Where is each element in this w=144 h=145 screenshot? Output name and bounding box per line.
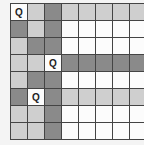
board-cell[interactable] [96,4,113,21]
board-cell[interactable] [79,38,96,55]
board-cell[interactable] [45,38,62,55]
board-cell[interactable] [45,72,62,89]
board-cell[interactable] [45,4,62,21]
board-cell[interactable] [62,38,79,55]
board-cell[interactable] [11,21,28,38]
board-cell[interactable] [96,123,113,140]
board-cell[interactable] [79,4,96,21]
queen-icon: Q [15,7,23,18]
board-cell[interactable] [96,38,113,55]
board-cell[interactable] [45,106,62,123]
game-board: QQQ [10,3,144,140]
board-cell[interactable] [130,55,144,72]
board-cell[interactable] [28,38,45,55]
board-cell[interactable] [62,89,79,106]
board-cell[interactable] [130,89,144,106]
board-cell[interactable] [11,72,28,89]
board-cell[interactable] [113,106,130,123]
board-cell[interactable]: Q [45,55,62,72]
board-cell[interactable] [11,89,28,106]
board-cell[interactable] [130,72,144,89]
board-cell[interactable]: Q [11,4,28,21]
board-cell[interactable] [79,55,96,72]
board-cell[interactable] [28,55,45,72]
board-cell[interactable] [62,4,79,21]
board-cell[interactable] [11,123,28,140]
board-cell[interactable] [28,4,45,21]
board-cell[interactable] [45,21,62,38]
board-cell[interactable] [113,38,130,55]
board-cell[interactable] [79,106,96,123]
queen-icon: Q [32,92,40,103]
board-cell[interactable] [96,106,113,123]
board-cell[interactable] [11,55,28,72]
board-cell[interactable] [28,72,45,89]
board-cell[interactable] [79,21,96,38]
board-cell[interactable] [62,21,79,38]
board-cell[interactable] [96,21,113,38]
board-cell[interactable] [113,89,130,106]
board-cell[interactable] [130,106,144,123]
board-cell[interactable] [79,72,96,89]
board-cell[interactable] [28,106,45,123]
board-cell[interactable] [11,106,28,123]
board-cell[interactable] [28,123,45,140]
board-cell[interactable] [113,72,130,89]
board-cell[interactable] [62,123,79,140]
board-cell[interactable] [96,89,113,106]
board-cell[interactable] [62,106,79,123]
board-cell[interactable] [113,4,130,21]
board-cell[interactable] [130,38,144,55]
board-cell[interactable]: Q [28,89,45,106]
board-cell[interactable] [130,123,144,140]
board-cell[interactable] [79,89,96,106]
board-cell[interactable] [96,72,113,89]
board-cell[interactable] [62,72,79,89]
board-cell[interactable] [113,55,130,72]
board-cell[interactable] [96,55,113,72]
board-cell[interactable] [28,21,45,38]
board-cell[interactable] [130,21,144,38]
board-cell[interactable] [11,38,28,55]
board-cell[interactable] [45,89,62,106]
board-cell[interactable] [130,4,144,21]
board-cell[interactable] [45,123,62,140]
board-cell[interactable] [62,55,79,72]
board-cell[interactable] [113,21,130,38]
queen-icon: Q [49,58,57,69]
board-cell[interactable] [113,123,130,140]
board-cell[interactable] [79,123,96,140]
